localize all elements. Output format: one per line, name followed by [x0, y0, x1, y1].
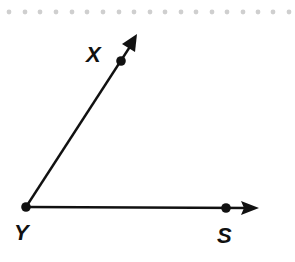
label-y: Y — [14, 220, 31, 245]
angle-diagram: X Y S — [0, 0, 295, 262]
point-x — [116, 56, 126, 66]
dotted-border — [7, 10, 292, 15]
label-x: X — [84, 42, 102, 67]
point-y — [21, 202, 31, 212]
label-s: S — [217, 223, 232, 248]
point-s — [221, 203, 231, 213]
